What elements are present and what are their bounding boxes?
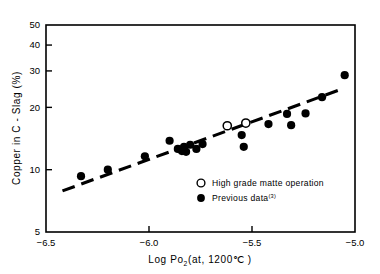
svg-text:Log Po2(at, 1200℃ ): Log Po2(at, 1200℃ ) — [148, 254, 251, 267]
y-tick-label: 5 — [35, 226, 40, 237]
y-tick-label: 10 — [29, 164, 40, 175]
data-point — [198, 140, 206, 148]
data-point — [341, 71, 349, 79]
data-point — [242, 119, 250, 127]
y-axis-title: Copper in C - Slag (%) — [11, 71, 22, 185]
chart-figure: 51020304050 −6.5−6.0−5.5−5.0 Copper in C… — [0, 0, 380, 274]
data-point — [77, 172, 85, 180]
y-tick-label: 40 — [29, 39, 40, 50]
data-point — [301, 109, 309, 117]
data-point — [287, 121, 295, 129]
copper-vs-logpo2-scatter-chart: 51020304050 −6.5−6.0−5.5−5.0 Copper in C… — [0, 0, 380, 274]
data-point — [264, 120, 272, 128]
data-point — [141, 152, 149, 160]
legend-label: High grade matte operation — [212, 178, 324, 188]
legend-label: Previous data(3) — [212, 193, 276, 203]
data-point — [182, 148, 190, 156]
y-tick-label: 20 — [29, 102, 40, 113]
data-point — [240, 143, 248, 151]
legend-marker-filled-circle — [197, 194, 205, 202]
y-tick-label: 50 — [29, 19, 40, 30]
x-tick-label: −5.0 — [346, 237, 365, 248]
y-tick-label: 30 — [29, 65, 40, 76]
chart-background — [0, 0, 380, 274]
legend-reference-superscript: (3) — [268, 193, 276, 199]
x-tick-label: −6.0 — [140, 237, 159, 248]
x-tick-label: −6.5 — [37, 237, 56, 248]
x-tick-label: −5.5 — [243, 237, 262, 248]
data-point — [223, 122, 231, 130]
x-axis-title-main: Log Po — [148, 254, 183, 265]
x-axis-title: Log Po2(at, 1200℃ ) — [148, 254, 251, 267]
y-axis-title-text: Copper in C - Slag (%) — [11, 71, 22, 185]
data-point — [104, 166, 112, 174]
data-point — [318, 93, 326, 101]
x-axis-title-tail: (at, 1200℃ ) — [188, 254, 252, 265]
data-point — [283, 110, 291, 118]
data-point — [238, 131, 246, 139]
legend-marker-open-circle — [197, 179, 205, 187]
data-point — [166, 137, 174, 145]
